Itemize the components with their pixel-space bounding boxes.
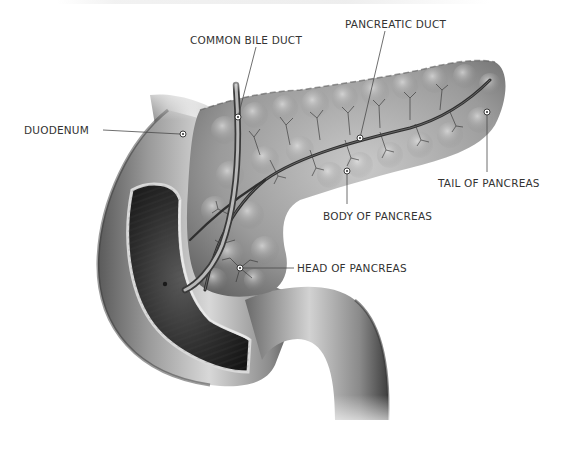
anchor-tail-of-pancreas-icon [484, 109, 490, 115]
anchor-head-of-pancreas-icon [237, 265, 243, 271]
anchor-body-of-pancreas-icon [344, 168, 350, 174]
anchor-pancreatic-duct-icon [357, 135, 363, 141]
pancreas-illustration [0, 0, 576, 454]
label-pancreatic-duct: PANCREATIC DUCT [345, 18, 446, 30]
anchor-duodenum-icon [180, 131, 186, 137]
label-body-of-pancreas: BODY OF PANCREAS [323, 210, 432, 222]
anchor-common-bile-duct-icon [235, 114, 241, 120]
label-head-of-pancreas: HEAD OF PANCREAS [297, 262, 407, 274]
label-common-bile-duct: COMMON BILE DUCT [190, 34, 302, 46]
label-tail-of-pancreas: TAIL OF PANCREAS [438, 177, 540, 189]
label-duodenum: DUODENUM [24, 124, 89, 136]
